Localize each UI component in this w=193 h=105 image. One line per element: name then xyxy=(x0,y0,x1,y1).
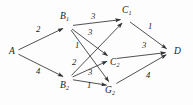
edge-weight-b2-c2: 3 xyxy=(88,68,92,77)
node-label-text: G xyxy=(105,85,112,95)
node-label-text: C xyxy=(122,5,128,15)
node-label-text: B xyxy=(60,80,66,90)
graph-edge xyxy=(73,20,121,26)
node-label-d: D xyxy=(174,47,181,57)
node-label-subscript: 2 xyxy=(112,89,115,96)
node-label-g2: G2 xyxy=(105,86,115,96)
node-label-c2: C2 xyxy=(110,58,119,68)
node-label-subscript: 2 xyxy=(117,61,120,68)
node-label-subscript: 1 xyxy=(66,15,69,22)
node-label-b2: B2 xyxy=(60,81,69,91)
node-label-b1: B1 xyxy=(60,12,69,22)
graph-diagram: AB1B2C1C2G2D 24331231134 xyxy=(0,0,193,105)
node-label-text: A xyxy=(9,46,15,56)
edge-weight-c1-d: 1 xyxy=(148,22,152,31)
node-label-text: D xyxy=(174,46,181,56)
edge-weight-a-b1: 2 xyxy=(36,25,40,34)
edge-weight-a-b2: 4 xyxy=(36,67,40,76)
graph-edge xyxy=(18,54,63,76)
edge-weight-b1-g2: 1 xyxy=(75,41,79,50)
node-label-text: C xyxy=(110,57,116,67)
edge-weight-g2-d: 4 xyxy=(146,71,150,80)
node-label-text: B xyxy=(60,11,66,21)
node-label-a: A xyxy=(9,47,15,57)
edge-weight-b1-c1: 3 xyxy=(91,12,95,21)
edge-weight-b2-g2: 1 xyxy=(87,81,91,90)
edge-weight-b1-c2: 3 xyxy=(88,28,92,37)
edge-weight-b2-c1: 2 xyxy=(72,58,76,67)
graph-edge xyxy=(116,55,166,84)
node-label-c1: C1 xyxy=(122,6,131,16)
graph-edges-canvas xyxy=(0,0,193,105)
graph-edge xyxy=(117,53,166,59)
node-label-subscript: 2 xyxy=(66,84,69,91)
node-label-subscript: 1 xyxy=(129,9,132,16)
edge-weight-c2-d: 3 xyxy=(142,41,146,50)
graph-edge xyxy=(19,28,64,49)
